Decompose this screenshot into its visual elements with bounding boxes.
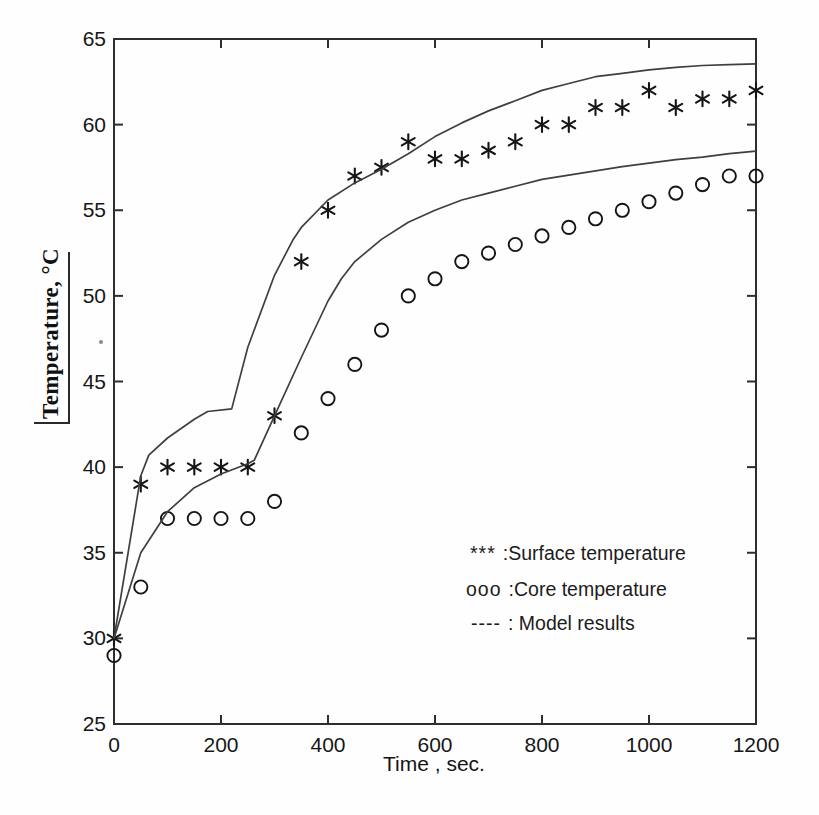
legend-symbol-asterisks: *** — [470, 542, 496, 564]
scan-artifact-dot — [99, 340, 103, 344]
svg-text:60: 60 — [83, 113, 106, 136]
svg-text:25: 25 — [83, 712, 106, 735]
legend-label-surface-temperature: :Surface temperature — [503, 542, 686, 564]
x-axis-label: Time , sec. — [334, 752, 534, 776]
legend-symbol-circles: ooo — [466, 578, 502, 600]
svg-text:1200: 1200 — [733, 733, 780, 756]
svg-text:200: 200 — [203, 733, 238, 756]
temperature-chart-canvas: 020040060080010001200253035404550556065 — [0, 0, 819, 815]
plot-frame — [114, 39, 756, 724]
y-tick-labels: 253035404550556065 — [83, 27, 106, 735]
model-results-line — [114, 151, 756, 638]
legend-label-core-temperature: :Core temperature — [509, 578, 667, 600]
legend-item-surface-temperature: ***:Surface temperature — [470, 542, 686, 565]
axis-ticks — [114, 39, 756, 724]
figure-page: 020040060080010001200253035404550556065 … — [0, 0, 819, 815]
legend-item-model-results: ----: Model results — [471, 612, 635, 635]
svg-text:55: 55 — [83, 198, 106, 221]
svg-text:50: 50 — [83, 284, 106, 307]
svg-text:30: 30 — [83, 626, 106, 649]
svg-text:65: 65 — [83, 27, 106, 50]
svg-text:35: 35 — [83, 541, 106, 564]
svg-text:45: 45 — [83, 370, 106, 393]
legend-symbol-dashes: ---- — [471, 612, 501, 634]
svg-text:1000: 1000 — [626, 733, 673, 756]
legend-item-core-temperature: ooo:Core temperature — [466, 578, 667, 601]
svg-text:0: 0 — [108, 733, 120, 756]
legend-label-model-results: : Model results — [508, 612, 635, 634]
y-axis-label: Temperature, °C — [34, 252, 70, 424]
svg-text:40: 40 — [83, 455, 106, 478]
